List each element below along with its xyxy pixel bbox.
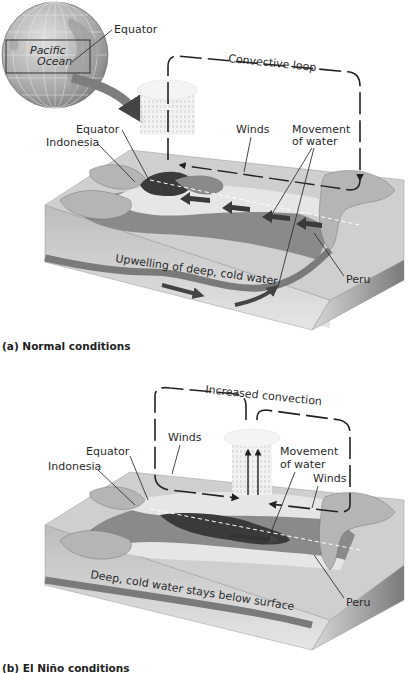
caption-normal: (a) Normal conditions [2, 340, 130, 352]
el-nino-diagram: Pacific Ocean Equator [0, 0, 414, 673]
winds-label-right: Winds [313, 472, 347, 485]
winds-label: Winds [236, 123, 270, 136]
caption-el-nino: (b) El Niño conditions [2, 662, 130, 673]
rain-cloud [137, 80, 197, 135]
leader-line [172, 445, 180, 474]
rain-cloud [224, 429, 280, 495]
movement-label-2: of water [292, 135, 338, 148]
ocean-label: Ocean [37, 55, 72, 68]
convective-loop-label: Convective loop [228, 52, 317, 74]
panel-b-el-nino: Deep, cold water stays below surface Inc… [2, 383, 404, 673]
indonesia-label: Indonesia [48, 460, 101, 473]
peru-label: Peru [346, 596, 371, 609]
indonesia-label: Indonesia [46, 136, 99, 149]
globe: Pacific Ocean Equator [2, 2, 158, 115]
winds-label-left: Winds [168, 431, 202, 444]
movement-label-2: of water [280, 458, 326, 471]
globe-equator-label: Equator [114, 23, 158, 36]
increased-convection-label: Increased convection [205, 383, 323, 408]
equator-label: Equator [86, 445, 130, 458]
equator-label: Equator [76, 123, 120, 136]
peru-label: Peru [346, 273, 371, 286]
movement-label: Movement [280, 445, 339, 458]
globe-continent [10, 39, 19, 51]
